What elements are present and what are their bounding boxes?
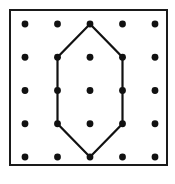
geoboard-canvas bbox=[0, 0, 175, 184]
peg-dot bbox=[22, 120, 29, 127]
peg-dot bbox=[22, 87, 29, 94]
geoboard-figure bbox=[0, 0, 175, 184]
peg-dot bbox=[152, 21, 159, 28]
peg-dot bbox=[22, 154, 29, 161]
peg-dot bbox=[22, 21, 29, 28]
peg-dot bbox=[152, 120, 159, 127]
peg-dot bbox=[119, 21, 126, 28]
peg-dot bbox=[22, 54, 29, 61]
peg-dot bbox=[87, 87, 94, 94]
peg-dot bbox=[152, 154, 159, 161]
peg-dot bbox=[152, 87, 159, 94]
peg-dot bbox=[87, 120, 94, 127]
peg-dot bbox=[152, 54, 159, 61]
peg-dot bbox=[119, 154, 126, 161]
peg-dot bbox=[54, 21, 61, 28]
peg-dot bbox=[87, 54, 94, 61]
peg-dot bbox=[54, 154, 61, 161]
